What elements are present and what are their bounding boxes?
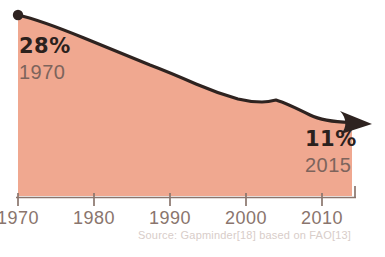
x-tick-label-1970: 1970 bbox=[0, 208, 39, 229]
undernourishment-area-chart: 28% 1970 11% 2015 1970 1980 1990 2000 20… bbox=[0, 0, 385, 257]
source-caption: Source: Gapminder[18] based on FAO[13] bbox=[138, 229, 351, 241]
area-fill bbox=[18, 15, 352, 196]
x-tick-label-2010: 2010 bbox=[301, 208, 343, 229]
start-point-dot-icon bbox=[13, 10, 23, 20]
x-tick-label-1990: 1990 bbox=[149, 208, 191, 229]
x-tick-label-2000: 2000 bbox=[225, 208, 267, 229]
x-tick-label-1980: 1980 bbox=[73, 208, 115, 229]
